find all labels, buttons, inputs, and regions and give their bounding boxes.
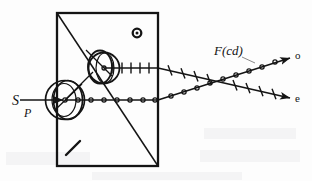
ordinary-ray-label: o	[295, 49, 301, 61]
optic-axis-marker	[66, 141, 80, 155]
crystal-diagonal-line	[57, 13, 158, 166]
wavefront-pointer	[242, 57, 255, 63]
source-label: S	[12, 93, 19, 108]
out-of-plane-dot-icon	[133, 29, 142, 38]
polarization-label: P	[23, 106, 32, 120]
optics-diagram: S P F(cd) o e	[0, 0, 312, 181]
figure-canvas: S P F(cd) o e	[0, 0, 312, 181]
lower-wavelet-cluster	[46, 72, 94, 120]
upper-wavelet-cluster	[86, 50, 120, 84]
extraordinary-ray-label: e	[295, 92, 300, 104]
wavefront-label: F(cd)	[213, 43, 243, 58]
